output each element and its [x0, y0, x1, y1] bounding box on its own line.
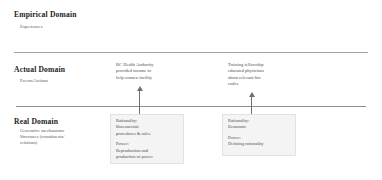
domain-title-real: Real Domain: [14, 117, 58, 126]
note-real-right: Rationality: Economic Power: Defining ra…: [228, 118, 294, 148]
domain-sublabel-actual: Events/Actions: [20, 78, 48, 84]
note-line: codes: [228, 81, 294, 87]
note-line: production of power: [116, 154, 182, 160]
note-actual-right: Training fellowship educated physicians …: [228, 62, 294, 87]
arrow-up-icon: [251, 96, 252, 114]
note-line: Defining rationality: [228, 141, 294, 147]
note-actual-middle: BC Health Authority provided income to h…: [116, 62, 178, 81]
divider-empirical-actual: [14, 52, 368, 53]
domain-sublabel-empirical: Experiences: [20, 24, 42, 30]
sublabel-line: relations): [20, 140, 65, 146]
domain-sublabel-real: Generative mechanisms Structures (consti…: [20, 128, 65, 147]
domain-title-actual: Actual Domain: [14, 65, 65, 74]
divider-actual-real: [16, 106, 366, 107]
note-real-middle: Rationality: Bureaucratic procedures & r…: [116, 118, 182, 160]
domain-title-empirical: Empirical Domain: [14, 10, 77, 19]
arrow-up-icon: [139, 90, 140, 114]
diagram-canvas: Empirical Domain Experiences Actual Doma…: [0, 0, 382, 180]
note-line: help women facility: [116, 75, 178, 81]
